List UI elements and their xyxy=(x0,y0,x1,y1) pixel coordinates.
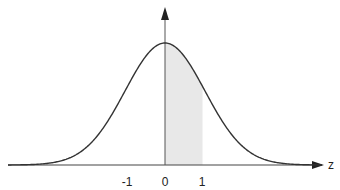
y-axis-arrow-icon xyxy=(161,7,169,20)
tick-label-1: 1 xyxy=(199,175,206,189)
axis-label-z: z xyxy=(328,158,334,172)
tick-label-0: 0 xyxy=(162,175,169,189)
tick-label-neg1: -1 xyxy=(122,175,133,189)
normal-curve-diagram: z -1 0 1 xyxy=(0,0,340,190)
shaded-area xyxy=(165,43,203,165)
